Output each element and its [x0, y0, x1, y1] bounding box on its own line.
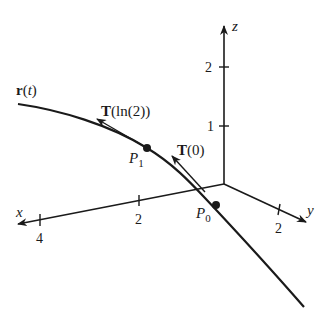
curve-label: r(t): [16, 82, 37, 99]
tangent-label-t0-bold: T: [177, 142, 187, 158]
z-tick-label-1: 1: [207, 119, 214, 134]
z-tick-label-2: 2: [205, 60, 212, 75]
point-p1: [143, 144, 151, 152]
tangent-vector-t0: [172, 156, 205, 192]
tangent-label-t-ln2-arg: (ln(2)): [111, 103, 150, 120]
tangent-label-t0: T(0): [177, 142, 205, 159]
point-p0-label-sub: 0: [205, 212, 211, 224]
y-tick-label-2: 2: [275, 221, 282, 236]
y-axis-label: y: [305, 202, 314, 218]
x-axis-label: x: [15, 204, 23, 220]
y-tick-2: [278, 204, 280, 215]
z-axis-label: z: [231, 18, 238, 34]
tangent-label-t0-arg: (0): [187, 142, 205, 159]
space-curve-diagram: z 2 1 y 2 x 2 4 r(t) T(ln(2)) T(0) P1 P0: [0, 0, 331, 329]
tangent-label-t-ln2: T(ln(2)): [101, 103, 150, 120]
y-axis: [224, 184, 306, 222]
point-p0-label-main: P: [195, 205, 205, 221]
tangent-label-t-ln2-bold: T: [101, 103, 111, 119]
point-p1-label-main: P: [128, 150, 138, 166]
tangent-vector-t-ln2: [97, 119, 147, 148]
x-tick-label-4: 4: [36, 231, 43, 246]
x-tick-label-2: 2: [135, 212, 142, 227]
point-p0-label: P0: [195, 205, 211, 224]
x-axis: [18, 184, 224, 224]
curve-r-of-t: [18, 104, 304, 307]
curve-label-paren-close: ): [32, 82, 37, 99]
point-p1-label: P1: [128, 150, 144, 169]
point-p0: [212, 201, 220, 209]
point-p1-label-sub: 1: [138, 157, 144, 169]
